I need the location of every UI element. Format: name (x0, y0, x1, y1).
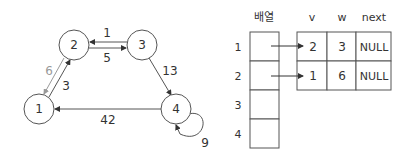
array-index: 3 (235, 99, 242, 112)
table-header-next: next (362, 11, 387, 24)
table-header-w: w (338, 11, 347, 24)
table-cell: 2 (309, 40, 317, 54)
table-cell: 3 (338, 40, 346, 54)
node-label: 4 (172, 102, 180, 116)
table-header-v: v (309, 11, 316, 24)
node-label: 3 (138, 38, 146, 52)
graph-node-1: 1 (24, 94, 54, 124)
array-title: 배열 (254, 11, 274, 24)
graph-diagram: 1 5 6 3 13 42 9 1 2 3 4 배열 1 2 3 4 v w n… (0, 0, 413, 157)
table-cell: NULL (360, 70, 389, 83)
array-index: 1 (235, 41, 242, 54)
graph-node-4: 4 (161, 94, 191, 124)
weight-label: 42 (100, 113, 115, 127)
array-cells (250, 32, 279, 148)
table-cell: 1 (309, 69, 317, 83)
weight-label: 9 (201, 136, 209, 150)
weight-label: 13 (162, 64, 177, 78)
node-label: 1 (35, 102, 43, 116)
graph-node-3: 3 (127, 30, 157, 60)
weight-label: 6 (45, 64, 53, 78)
weight-label: 3 (62, 79, 70, 93)
weight-label: 5 (103, 51, 111, 65)
table-cell: NULL (360, 41, 389, 54)
array-index: 4 (235, 128, 242, 141)
array-index: 2 (235, 70, 242, 83)
weight-label: 1 (103, 26, 111, 40)
graph-node-2: 2 (59, 30, 89, 60)
node-label: 2 (70, 38, 78, 52)
table-cell: 6 (338, 69, 346, 83)
